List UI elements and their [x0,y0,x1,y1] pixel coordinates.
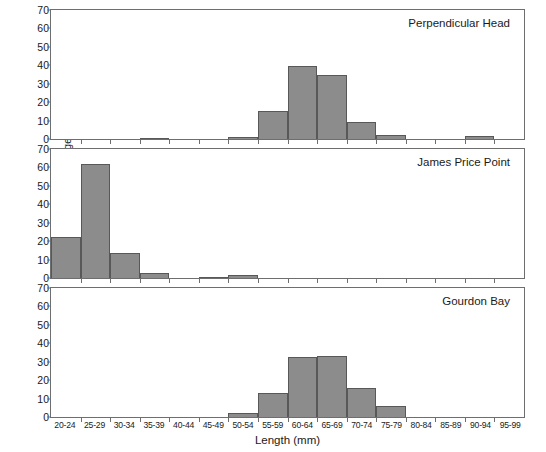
y-tick-mark [47,398,51,399]
x-tick-label: 25-29 [80,420,110,434]
bar-series [51,10,524,139]
y-tick-mark [47,28,51,29]
x-tick-label: 55-59 [258,420,288,434]
plot-area [51,10,524,139]
bar-slot [317,149,347,278]
bar-slot [258,288,288,417]
bar-slot [494,288,524,417]
bar-slot [494,10,524,139]
bar-slot [288,288,318,417]
bar [288,66,318,139]
y-tick-mark [47,46,51,47]
y-tick-label: 70 [9,143,49,155]
x-axis-label: Length (mm) [50,434,525,446]
y-tick-label: 30 [9,217,49,229]
y-tick-mark [47,83,51,84]
x-tick-mark [435,278,436,283]
bar-slot [347,10,377,139]
y-tick-label: 60 [9,22,49,34]
bar-slot [110,10,140,139]
bar-slot [258,149,288,278]
y-tick-mark [47,185,51,186]
x-tick-mark [494,139,495,144]
x-tick-label: 75-79 [377,420,407,434]
bar-slot [169,149,199,278]
y-tick-mark [47,324,51,325]
bar-slot [347,149,377,278]
y-tick-label: 70 [9,282,49,294]
x-tick-mark [376,139,377,144]
plot-area [51,288,524,417]
x-tick-mark [288,278,289,283]
y-tick-mark [47,65,51,66]
x-tick-mark [199,278,200,283]
bar [288,357,318,417]
bar-slot [169,288,199,417]
x-tick-label: 35-39 [139,420,169,434]
y-tick-mark [47,167,51,168]
bar-slot [169,10,199,139]
bar-slot [199,149,229,278]
bar-slot [406,288,436,417]
x-tick-label: 20-24 [50,420,80,434]
bar-slot [435,10,465,139]
x-tick-mark [406,278,407,283]
panel-gourdon-bay: Gourdon Bay 010203040506070 [50,287,525,418]
y-tick-label: 20 [9,96,49,108]
y-tick-label: 50 [9,180,49,192]
y-tick-label: 0 [9,411,49,423]
bar-slot [228,149,258,278]
x-tick-mark [494,278,495,283]
bar [258,393,288,417]
bar-slot [435,288,465,417]
x-tick-label: 40-44 [169,420,199,434]
x-tick-label: 70-74 [347,420,377,434]
x-tick-label: 80-84 [406,420,436,434]
bar-slot [140,10,170,139]
x-tick-mark [317,139,318,144]
y-tick-mark [47,361,51,362]
x-tick-label: 60-64 [288,420,318,434]
bar [110,253,140,278]
bar-slot [435,149,465,278]
x-tick-mark [406,139,407,144]
bar-slot [406,149,436,278]
panel-perpendicular-head: Perpendicular Head 010203040506070 [50,9,525,140]
y-tick-label: 70 [9,4,49,16]
y-tick-label: 60 [9,161,49,173]
x-tick-label: 85-89 [436,420,466,434]
bar [317,75,347,140]
x-tick-mark [81,139,82,144]
bar-series [51,149,524,278]
y-tick-mark [47,139,51,140]
bar [258,111,288,139]
bar-slot [465,149,495,278]
y-tick-labels: 010203040506070 [51,288,99,417]
x-tick-mark [110,139,111,144]
bar-slot [494,149,524,278]
y-tick-label: 40 [9,59,49,71]
x-axis-tick-labels: 20-2425-2930-3435-3940-4445-4950-5455-59… [50,420,525,434]
x-tick-marks [51,139,524,144]
y-tick-mark [47,278,51,279]
bar-slot [110,288,140,417]
x-tick-mark [465,278,466,283]
y-tick-label: 40 [9,337,49,349]
bar-series [51,288,524,417]
bar-slot [288,149,318,278]
x-tick-mark [435,139,436,144]
y-tick-mark [47,259,51,260]
plot-area [51,149,524,278]
panel-james-price-point: James Price Point 010203040506070 [50,148,525,279]
x-tick-mark [169,278,170,283]
y-tick-mark [47,241,51,242]
y-tick-mark [47,149,51,150]
bar [347,122,377,139]
y-tick-mark [47,288,51,289]
y-tick-label: 30 [9,78,49,90]
y-tick-label: 10 [9,393,49,405]
bar-slot [199,288,229,417]
x-tick-mark [317,278,318,283]
x-tick-mark [258,139,259,144]
bar-slot [288,10,318,139]
